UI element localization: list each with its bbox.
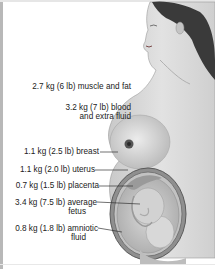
label-placenta: 0.7 kg (1.5 lb) placenta [16,181,99,191]
frame-border-bottom [0,264,215,265]
diagram-frame: 2.7 kg (6 lb) muscle and fat 3.2 kg (7 l… [0,0,215,269]
breast [110,115,170,169]
label-amniotic-line2: fluid [71,233,86,243]
label-uterus: 1.1 kg (2.0 lb) uterus [20,165,95,175]
label-fetus-line2: fetus [68,207,86,217]
label-blood-line2: and extra fluid [80,112,131,122]
label-breast: 1.1 kg (2.5 lb) breast [24,147,99,157]
label-muscle-fat: 2.7 kg (6 lb) muscle and fat [32,82,131,92]
